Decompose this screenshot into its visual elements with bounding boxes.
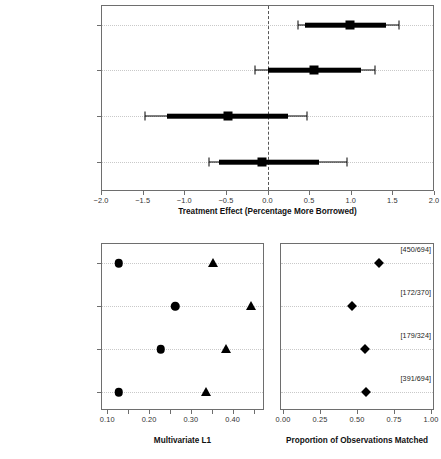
multivariate-l1-frame xyxy=(101,243,264,410)
multivariate-l1-axis-title: Multivariate L1 xyxy=(154,436,211,445)
pm-x-tick-label-3: 0.75 xyxy=(387,415,402,424)
forest-inner-interval-4 xyxy=(219,160,319,165)
l1-triangle-marker-row-1 xyxy=(208,258,218,267)
l1-x-tick-label-2: 0.20 xyxy=(142,415,157,424)
forest-x-tick-label-3: −0.5 xyxy=(218,196,233,205)
l1-x-tick-label-6: 0.40 xyxy=(225,415,240,424)
forest-x-tick-label-1: −1.5 xyxy=(135,196,150,205)
l1-x-tick-3 xyxy=(170,410,171,414)
forest-x-tick-label-5: 0.5 xyxy=(304,196,315,205)
row-tick-2 xyxy=(97,70,102,71)
pm-gridline-row-1 xyxy=(281,263,433,264)
forest-interval-cap-low-2 xyxy=(255,66,256,75)
forest-point-estimate-1 xyxy=(345,21,354,30)
forest-interval-cap-high-3 xyxy=(307,112,308,121)
pm-gridline-row-4 xyxy=(281,392,433,393)
l1-row-tick-3 xyxy=(97,349,102,350)
forest-point-estimate-2 xyxy=(310,66,319,75)
l1-circle-marker-row-2 xyxy=(171,302,180,311)
l1-row-tick-1 xyxy=(97,263,102,264)
l1-gridline-row-4 xyxy=(102,392,263,393)
l1-row-tick-2 xyxy=(97,306,102,307)
l1-x-tick-7 xyxy=(254,410,255,414)
l1-triangle-marker-row-3 xyxy=(221,344,231,353)
pm-count-annotation-row-1: [450/694] xyxy=(401,245,431,254)
l1-gridline-row-3 xyxy=(102,349,263,350)
forest-x-tick-4 xyxy=(268,191,269,195)
row-tick-1 xyxy=(97,25,102,26)
pm-x-tick-label-2: 0.50 xyxy=(350,415,365,424)
row-tick-3 xyxy=(97,116,102,117)
pm-x-tick-label-4: 1.00 xyxy=(424,415,439,424)
pm-count-annotation-row-4: [391/694] xyxy=(401,374,431,383)
forest-x-tick-3 xyxy=(226,191,227,195)
pm-x-tick-3 xyxy=(394,410,395,414)
forest-x-tick-label-4: 0.0 xyxy=(262,196,273,205)
forest-interval-cap-low-1 xyxy=(298,21,299,30)
l1-x-tick-2 xyxy=(149,410,150,414)
forest-axis-title: Treatment Effect (Percentage More Borrow… xyxy=(178,207,356,216)
pm-x-tick-label-1: 0.25 xyxy=(313,415,328,424)
l1-gridline-row-2 xyxy=(102,306,263,307)
forest-x-tick-label-0: −2.0 xyxy=(94,196,109,205)
forest-x-tick-2 xyxy=(184,191,185,195)
l1-x-tick-5 xyxy=(212,410,213,414)
forest-x-tick-1 xyxy=(143,191,144,195)
proportion-matched-frame xyxy=(280,243,434,410)
forest-x-tick-label-2: −1.0 xyxy=(177,196,192,205)
forest-point-estimate-3 xyxy=(224,112,233,121)
pm-gridline-row-3 xyxy=(281,349,433,350)
pm-x-tick-1 xyxy=(320,410,321,414)
pm-count-annotation-row-3: [179/324] xyxy=(401,331,431,340)
forest-x-tick-label-7: 1.5 xyxy=(387,196,398,205)
forest-interval-cap-low-4 xyxy=(209,158,210,167)
l1-triangle-marker-row-2 xyxy=(246,301,256,310)
pm-count-annotation-row-2: [172/370] xyxy=(401,288,431,297)
l1-x-tick-6 xyxy=(233,410,234,414)
forest-interval-cap-low-3 xyxy=(145,112,146,121)
pm-x-tick-label-0: 0.00 xyxy=(276,415,291,424)
forest-x-tick-label-6: 1.0 xyxy=(345,196,356,205)
forest-interval-cap-high-2 xyxy=(374,66,375,75)
row-tick-4 xyxy=(97,162,102,163)
pm-x-tick-0 xyxy=(283,410,284,414)
forest-x-tick-6 xyxy=(351,191,352,195)
forest-interval-cap-high-4 xyxy=(346,158,347,167)
l1-x-tick-label-0: 0.10 xyxy=(100,415,115,424)
l1-circle-marker-row-3 xyxy=(157,345,166,354)
pm-x-tick-2 xyxy=(357,410,358,414)
l1-circle-marker-row-4 xyxy=(115,388,124,397)
forest-x-tick-8 xyxy=(434,191,435,195)
l1-row-tick-4 xyxy=(97,392,102,393)
l1-circle-marker-row-1 xyxy=(114,259,123,268)
forest-interval-cap-high-1 xyxy=(399,21,400,30)
l1-x-tick-4 xyxy=(191,410,192,414)
forest-x-tick-0 xyxy=(101,191,102,195)
l1-x-tick-label-4: 0.30 xyxy=(183,415,198,424)
pm-x-tick-4 xyxy=(431,410,432,414)
proportion-matched-axis-title: Proportion of Observations Matched xyxy=(286,436,428,445)
forest-x-tick-label-8: 2.0 xyxy=(429,196,440,205)
l1-x-tick-1 xyxy=(128,410,129,414)
forest-x-tick-7 xyxy=(392,191,393,195)
pm-gridline-row-2 xyxy=(281,306,433,307)
l1-gridline-row-1 xyxy=(102,263,263,264)
forest-point-estimate-4 xyxy=(257,158,266,167)
l1-triangle-marker-row-4 xyxy=(201,387,211,396)
l1-x-tick-0 xyxy=(107,410,108,414)
forest-x-tick-5 xyxy=(309,191,310,195)
